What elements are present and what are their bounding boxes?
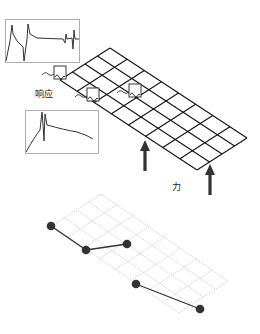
grid-line	[147, 259, 196, 291]
diagram-svg	[0, 0, 260, 334]
grid-line	[64, 218, 191, 305]
sensor-icon	[42, 66, 66, 79]
mode-point	[132, 280, 141, 289]
mode-segment	[136, 284, 200, 309]
mode-point	[196, 305, 205, 314]
dashed-mode-grid	[52, 194, 228, 313]
mode-point	[123, 240, 132, 249]
sensors	[42, 66, 141, 101]
grid-line	[68, 205, 117, 237]
grid-line	[131, 248, 180, 280]
force-arrow-icon	[140, 140, 150, 171]
grid-line	[116, 238, 165, 270]
mode-point	[47, 222, 56, 231]
grid-line	[89, 202, 216, 289]
response-chart-bottom	[26, 111, 99, 154]
mode-point	[82, 246, 91, 255]
diagram-canvas: 响应 力	[0, 0, 260, 334]
grid-line	[52, 194, 101, 226]
mode-segment	[86, 244, 127, 250]
force-arrow-icon	[205, 164, 215, 195]
response-label: 响应	[35, 87, 53, 100]
mode-shape-lines	[51, 226, 200, 309]
force-label: 力	[172, 180, 181, 193]
response-chart-top	[6, 20, 80, 63]
